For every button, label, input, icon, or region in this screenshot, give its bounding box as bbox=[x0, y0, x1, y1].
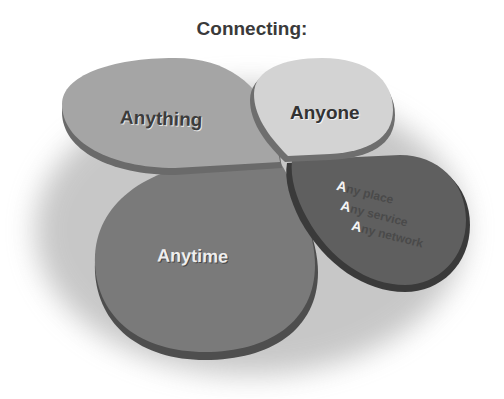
anything-label: Anything bbox=[120, 107, 203, 132]
clover-diagram bbox=[0, 0, 504, 399]
anyone-label: Anyone bbox=[290, 102, 360, 124]
anytime-label: Anytime bbox=[157, 245, 228, 267]
